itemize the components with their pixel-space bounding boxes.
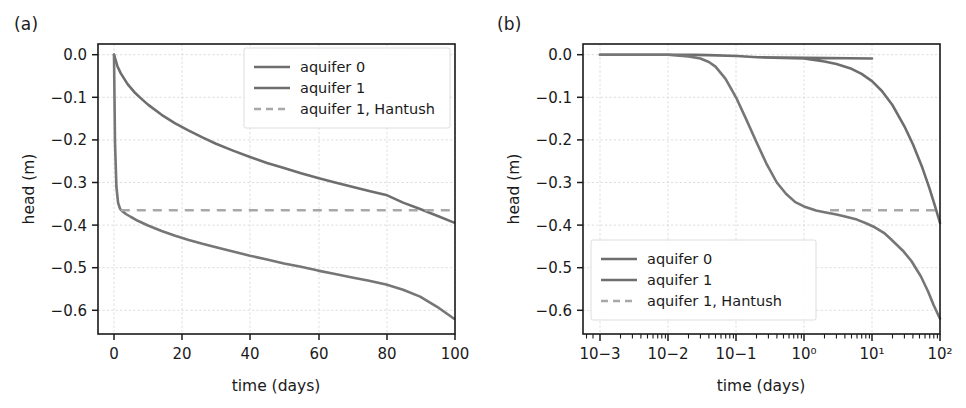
ytick-label: −0.1: [51, 89, 87, 107]
xtick-label: 10−1: [715, 345, 756, 363]
panel-b-ylabel: head (m): [505, 154, 523, 225]
ytick-label: −0.2: [51, 131, 87, 149]
panel-b-yticklabels: 0.0 −0.1 −0.2 −0.3 −0.4 −0.5 −0.6: [536, 46, 572, 320]
panel-a-plot: 0.0 −0.1 −0.2 −0.3 −0.4 −0.5 −0.6 0 20: [0, 0, 483, 408]
ytick-label: −0.2: [536, 131, 572, 149]
ytick-label: −0.5: [536, 259, 572, 277]
xtick-label: 0: [109, 345, 119, 363]
ytick-label: −0.6: [51, 302, 87, 320]
panel-a-ylabel: head (m): [20, 154, 38, 225]
ytick-label: −0.3: [536, 174, 572, 192]
panel-b: (b): [483, 0, 966, 408]
ytick-label: −0.3: [51, 174, 87, 192]
legend-label-aquifer-1-hantush: aquifer 1, Hantush: [647, 293, 782, 309]
xtick-label: 20: [172, 345, 191, 363]
panel-a-yticklabels: 0.0 −0.1 −0.2 −0.3 −0.4 −0.5 −0.6: [51, 46, 87, 320]
ytick-label: −0.4: [536, 217, 572, 235]
xtick-label: 10¹: [859, 345, 884, 363]
legend-label-aquifer-0: aquifer 0: [647, 251, 712, 267]
ytick-label: −0.4: [51, 217, 87, 235]
panel-b-xticks: [600, 334, 940, 341]
xtick-label: 10−3: [579, 345, 620, 363]
ytick-label: −0.1: [536, 89, 572, 107]
curve-aquifer-0: [600, 55, 940, 223]
panel-a-yticks: [92, 55, 98, 311]
ytick-label: −0.6: [536, 302, 572, 320]
ytick-label: 0.0: [63, 46, 87, 64]
panel-b-yticks: [577, 55, 583, 311]
xtick-label: 60: [309, 345, 328, 363]
xtick-label: 100: [441, 345, 470, 363]
figure-container: (a): [0, 0, 966, 408]
panel-b-plot: 0.0 −0.1 −0.2 −0.3 −0.4 −0.5 −0.6: [483, 0, 966, 408]
xtick-label: 10²: [927, 345, 952, 363]
xtick-label: 80: [377, 345, 396, 363]
xtick-label: 10⁰: [791, 345, 816, 363]
panel-a-xlabel: time (days): [232, 377, 321, 395]
panel-b-legend: aquifer 0 aquifer 1 aquifer 1, Hantush: [591, 240, 816, 320]
panel-a: (a): [0, 0, 483, 408]
panel-b-xticklabels: 10−3 10−2 10−1 10⁰ 10¹ 10²: [579, 345, 952, 363]
panel-a-legend: aquifer 0 aquifer 1 aquifer 1, Hantush: [244, 48, 450, 128]
legend-label-aquifer-1-hantush: aquifer 1, Hantush: [300, 101, 435, 117]
panel-a-xticklabels: 0 20 40 60 80 100: [109, 345, 469, 363]
ytick-label: −0.5: [51, 259, 87, 277]
panel-b-xlabel: time (days): [717, 377, 806, 395]
legend-label-aquifer-1: aquifer 1: [647, 272, 712, 288]
xtick-label: 40: [240, 345, 259, 363]
legend-label-aquifer-0: aquifer 0: [300, 59, 365, 75]
legend-label-aquifer-1: aquifer 1: [300, 80, 365, 96]
xtick-label: 10−2: [647, 345, 688, 363]
panel-a-xticks: [114, 334, 455, 340]
ytick-label: 0.0: [548, 46, 572, 64]
